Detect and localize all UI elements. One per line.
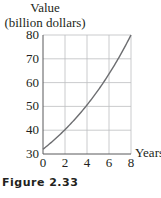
y-tick-label: 40 xyxy=(26,122,39,137)
x-axis-label: Years xyxy=(135,145,161,160)
x-tick-label: 0 xyxy=(40,155,47,170)
y-tick-label: 50 xyxy=(26,98,39,113)
x-tick-label: 4 xyxy=(84,155,91,170)
x-tick-label: 2 xyxy=(62,155,69,170)
x-tick-label: 8 xyxy=(128,155,135,170)
figure-caption: Figure 2.33 xyxy=(2,176,78,189)
y-tick-label: 30 xyxy=(26,146,39,161)
y-tick-label: 80 xyxy=(26,27,39,42)
y-tick-label: 60 xyxy=(26,75,39,90)
chart-plot: 30405060708002468Years xyxy=(0,0,161,198)
y-tick-label: 70 xyxy=(26,51,39,66)
x-tick-label: 6 xyxy=(106,155,113,170)
